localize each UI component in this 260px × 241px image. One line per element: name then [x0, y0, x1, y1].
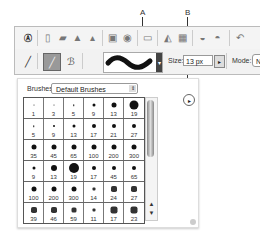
- brush-tip[interactable]: 9: [24, 161, 44, 181]
- brush-tip[interactable]: 46: [44, 203, 64, 223]
- new-document-icon[interactable]: ▯: [41, 31, 54, 44]
- brushes-set-select[interactable]: Default Brushes ⇕: [51, 83, 138, 94]
- brush-tip[interactable]: 1: [24, 98, 44, 118]
- delete-icon[interactable]: ▭: [141, 31, 154, 44]
- resize-grip-icon[interactable]: [190, 219, 196, 225]
- brush-tip-shape-icon: [92, 124, 96, 128]
- brush-tip-shape-icon: [71, 145, 76, 150]
- brush-tip[interactable]: 17: [104, 203, 124, 223]
- brush-tip-shape-icon: [32, 167, 35, 170]
- brush-tip[interactable]: 19: [64, 161, 84, 181]
- chevron-down-icon[interactable]: ▾: [156, 53, 162, 72]
- brush-tip[interactable]: 13: [104, 98, 124, 118]
- brush-tip-shape-icon: [31, 207, 37, 213]
- email-attachment-icon[interactable]: ◓: [211, 31, 224, 44]
- scroll-up-arrow-icon[interactable]: ▲: [147, 200, 156, 208]
- impressionist-brush-icon[interactable]: ℬ: [64, 55, 77, 68]
- brush-size-label: 13: [104, 111, 123, 118]
- mode-label: Mode:: [232, 57, 251, 64]
- brush-tip-shape-icon: [92, 188, 95, 191]
- brush-tip-shape-icon: [112, 124, 116, 128]
- brush-tool-icon[interactable]: ╱: [21, 55, 34, 68]
- brush-tip[interactable]: 35: [24, 140, 44, 160]
- brush-tip-shape-icon: [111, 103, 116, 108]
- open-folder-icon[interactable]: ▰: [56, 31, 69, 44]
- brush-size-label: 19: [124, 111, 144, 118]
- brush-tip[interactable]: 200: [44, 182, 64, 202]
- brush-tip[interactable]: 200: [104, 140, 124, 160]
- brush-size-label: 300: [64, 195, 83, 202]
- size-input[interactable]: 13 px: [183, 55, 213, 66]
- email-icon[interactable]: ◒: [196, 31, 209, 44]
- brush-tip[interactable]: 13: [44, 161, 64, 181]
- brush-size-label: 59: [64, 216, 83, 223]
- toolbar-separator: [192, 30, 193, 46]
- brush-preview-dropdown[interactable]: ▾: [103, 52, 163, 73]
- brush-tip[interactable]: 11: [84, 203, 104, 223]
- brush-size-label: 3: [44, 111, 63, 118]
- brush-tip-shape-icon: [69, 163, 79, 173]
- size-slider-button[interactable]: ▸: [214, 55, 225, 68]
- scan-icon[interactable]: ▴: [86, 31, 99, 44]
- brush-size-label: 9: [84, 111, 103, 118]
- brush-tip[interactable]: 27: [124, 182, 144, 202]
- save-for-web-icon[interactable]: ◉: [121, 31, 134, 44]
- panel-menu-arrow-icon[interactable]: ▸: [183, 94, 195, 106]
- print-icon[interactable]: ◭: [161, 31, 174, 44]
- brush-grid-row: 13591319: [24, 98, 144, 119]
- brush-tip[interactable]: 19: [124, 98, 144, 118]
- scrollbar-thumb[interactable]: [147, 100, 154, 157]
- browse-icon[interactable]: ▲: [71, 31, 84, 44]
- brush-tip-shape-icon: [51, 187, 56, 192]
- scroll-down-arrow-icon[interactable]: ▼: [147, 209, 156, 217]
- toolbar-separator: [157, 30, 158, 46]
- brush-tip[interactable]: 17: [84, 161, 104, 181]
- brush-tip[interactable]: 13: [64, 119, 84, 139]
- brush-tip-shape-icon: [92, 104, 95, 107]
- brush-size-label: 27: [124, 195, 144, 202]
- brush-tip-shape-icon: [92, 209, 95, 212]
- brush-size-label: 27: [124, 132, 144, 139]
- callout-b-label: B: [185, 8, 190, 17]
- brush-tip[interactable]: 27: [124, 119, 144, 139]
- brush-grid-row: 5913172127: [24, 119, 144, 140]
- brush-tip[interactable]: 9: [84, 98, 104, 118]
- undo-icon[interactable]: ↶: [233, 31, 246, 44]
- brush-tip[interactable]: 5: [24, 119, 44, 139]
- brush-tip[interactable]: 65: [64, 140, 84, 160]
- brush-tip[interactable]: 100: [24, 182, 44, 202]
- brush-grid-scrollbar[interactable]: ▲ ▼: [145, 97, 158, 221]
- brush-tip[interactable]: 39: [24, 203, 44, 223]
- brush-tip[interactable]: 65: [124, 161, 144, 181]
- brush-tip[interactable]: 300: [124, 140, 144, 160]
- brush-tip-shape-icon: [73, 104, 75, 106]
- brush-tip[interactable]: 45: [44, 140, 64, 160]
- brush-size-label: 17: [104, 216, 123, 223]
- brush-tip-shape-icon: [91, 145, 96, 150]
- brush-tip-shape-icon: [111, 145, 116, 150]
- brush-size-label: 9: [44, 132, 63, 139]
- brush-size-label: 17: [84, 174, 103, 181]
- print-preview-icon[interactable]: ▦: [176, 31, 189, 44]
- brush-tip[interactable]: 5: [64, 98, 84, 118]
- brush-preset-icon[interactable]: ╱: [43, 53, 61, 71]
- brush-size-label: 13: [64, 132, 83, 139]
- brush-tip[interactable]: 100: [84, 140, 104, 160]
- brush-tip[interactable]: 3: [44, 98, 64, 118]
- save-icon[interactable]: ▣: [106, 31, 119, 44]
- brush-tip[interactable]: 24: [104, 182, 124, 202]
- brush-tip[interactable]: 9: [44, 119, 64, 139]
- brush-tip[interactable]: 21: [104, 119, 124, 139]
- brush-grid-row: 100200300142427: [24, 182, 144, 203]
- brush-tip[interactable]: 59: [64, 203, 84, 223]
- brush-size-label: 13: [44, 174, 63, 181]
- brush-tip[interactable]: 45: [104, 161, 124, 181]
- brush-size-label: 65: [124, 174, 144, 181]
- brush-tip[interactable]: 14: [84, 182, 104, 202]
- brush-tip-shape-icon: [130, 101, 139, 110]
- brush-tip[interactable]: 300: [64, 182, 84, 202]
- mode-select[interactable]: Nor: [252, 54, 260, 67]
- brush-tip[interactable]: 17: [84, 119, 104, 139]
- toolbar-separator: [37, 53, 38, 69]
- brush-tip[interactable]: 23: [124, 203, 144, 223]
